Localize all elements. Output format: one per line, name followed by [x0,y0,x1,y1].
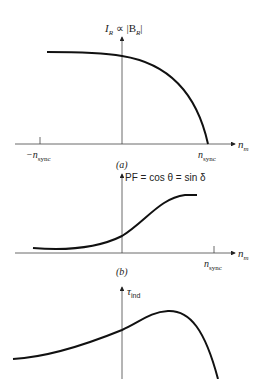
panel-b-curve [33,195,197,249]
motor-characteristics-diagram: IR ∝ |BR| nm −nsync nsync (a) PF = cos θ… [0,0,266,379]
panel-a-y-label: IR ∝ |BR| [104,22,142,37]
panel-a-x-label: nm [238,138,249,153]
panel-c-curve [13,311,218,379]
panel-a-caption: (a) [116,159,128,171]
panel-c: τind [13,285,218,379]
panel-a-neg-sync-label: −nsync [26,149,51,163]
panel-b: PF = cos θ = sin δ nm nsync (b) [15,172,249,278]
panel-a-pos-sync-label: nsync [198,149,216,163]
panel-a-curve [47,52,208,144]
panel-a: IR ∝ |BR| nm −nsync nsync (a) [15,22,249,171]
panel-c-y-label: τind [127,285,140,299]
panel-b-sync-label: nsync [204,258,222,272]
panel-b-x-label: nm [238,247,249,262]
panel-b-y-label: PF = cos θ = sin δ [125,172,206,183]
panel-b-caption: (b) [116,266,128,278]
